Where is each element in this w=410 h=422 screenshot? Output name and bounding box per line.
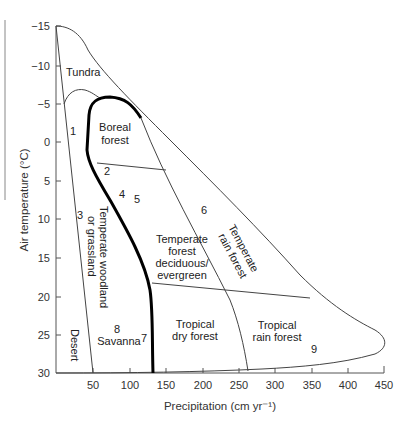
y-tick-label: 5	[44, 175, 50, 187]
x-tick-label: 50	[87, 379, 99, 391]
label-tropical-rainforest: rain forest	[253, 331, 302, 343]
x-axis-title: Precipitation (cm yr⁻¹)	[164, 400, 276, 412]
y-tick-label: 25	[38, 329, 50, 341]
label-desert: Desert	[69, 329, 81, 361]
marker-7: 7	[141, 332, 147, 344]
x-tick-label: 450	[375, 379, 393, 391]
biome-diagram: −15 −10 −5 0 5 10 15 20 25 30 Air temper…	[0, 0, 410, 422]
y-tick-label: 15	[38, 252, 50, 264]
label-temperate-forest: deciduous/	[155, 257, 209, 269]
y-tick-label: 30	[38, 367, 50, 379]
label-temperate-woodland: or grassland	[86, 216, 98, 277]
temperate-tropical-divide	[152, 283, 310, 298]
y-tick-label: 10	[38, 213, 50, 225]
label-temperate-forest: forest	[168, 245, 196, 257]
biome-envelope	[56, 26, 385, 373]
label-temperate-forest: Temperate	[156, 233, 208, 245]
x-tick-label: 350	[303, 379, 321, 391]
y-tick-label: −15	[31, 20, 50, 32]
x-tick-label: 300	[266, 379, 284, 391]
x-tick-label: 150	[157, 379, 175, 391]
x-tick-label: 250	[230, 379, 248, 391]
x-tick-label: 200	[194, 379, 212, 391]
y-axis-title: Air temperature (°C)	[18, 148, 30, 251]
y-tick-label: −10	[31, 60, 50, 72]
marker-8: 8	[114, 323, 120, 335]
marker-4: 4	[119, 188, 125, 200]
x-tick-label: 400	[339, 379, 357, 391]
marker-5: 5	[134, 193, 140, 205]
marker-6: 6	[201, 204, 207, 216]
marker-1: 1	[70, 125, 76, 137]
desert-boundary	[56, 26, 93, 373]
x-tick-label: 100	[121, 379, 139, 391]
label-temperate-forest: evergreen	[157, 269, 207, 281]
marker-2: 2	[104, 165, 110, 177]
y-axis: −15 −10 −5 0 5 10 15 20 25 30 Air temper…	[18, 20, 61, 379]
y-tick-label: 0	[44, 136, 50, 148]
marker-3: 3	[77, 209, 83, 221]
label-tropical-rainforest: Tropical	[258, 319, 297, 331]
y-tick-label: −5	[37, 98, 50, 110]
label-savanna: Savanna	[97, 335, 141, 347]
label-temperate-woodland: Temperate woodland	[98, 206, 110, 308]
label-boreal: forest	[101, 134, 129, 146]
label-boreal: Boreal	[99, 121, 131, 133]
label-tropical-dry-forest: Tropical	[176, 318, 215, 330]
y-tick-label: 20	[38, 291, 50, 303]
label-tundra: Tundra	[66, 66, 101, 78]
label-tropical-dry-forest: dry forest	[172, 330, 218, 342]
marker-9: 9	[311, 343, 317, 355]
